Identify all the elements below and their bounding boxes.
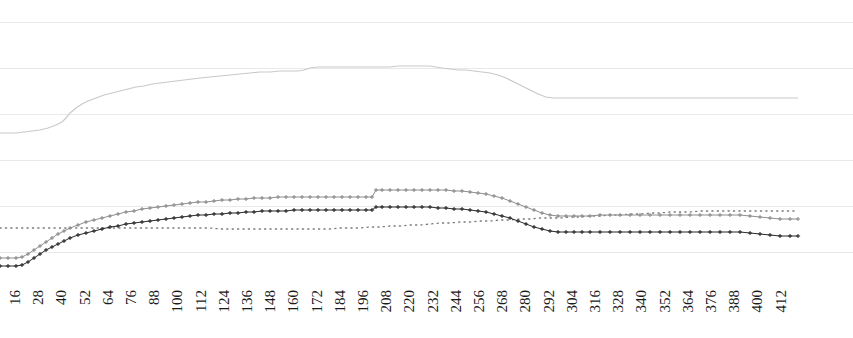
series-line-3 — [0, 207, 798, 266]
plot-svg — [0, 0, 853, 290]
series-series-3-mid-gray-plus — [0, 188, 800, 260]
gridlines — [0, 23, 853, 253]
plot-area — [0, 0, 853, 290]
line-chart: 1628405264768810011212413614816017218419… — [0, 0, 853, 338]
series-lines — [0, 66, 800, 268]
series-line-2 — [0, 190, 798, 258]
x-axis-tick-labels: 1628405264768810011212413614816017218419… — [0, 290, 853, 338]
series-line-0 — [0, 66, 798, 133]
series-series-1-upper-gray — [0, 66, 798, 133]
x-tick-label: 412 — [774, 290, 822, 338]
